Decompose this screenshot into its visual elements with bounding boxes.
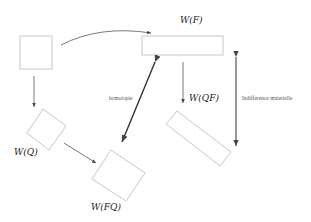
label-wf: W(F) [180,15,203,25]
arrow-source-to-wf [61,31,151,45]
arrow-wq-to-wfq [64,143,96,163]
box-wq [27,109,66,150]
label-homotopy: homotopie [109,95,133,101]
box-source [20,36,52,69]
box-wf [142,36,223,55]
label-wqf: W(QF) [189,93,219,103]
box-wqf [166,111,231,166]
label-wfq: W(FQ) [91,202,121,212]
label-wq: W(Q) [14,147,38,157]
label-indifference: Indifference materielle [242,95,292,101]
diagram-svg [0,0,311,222]
diagram-canvas: W(F) W(QF) W(Q) W(FQ) homotopie Indiffer… [0,0,311,222]
box-wfq [92,150,145,201]
arrow-homotopy [122,62,155,142]
